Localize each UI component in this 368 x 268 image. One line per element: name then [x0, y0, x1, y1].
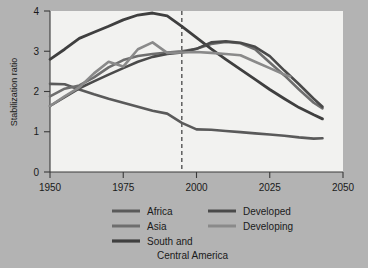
plot-panel: [50, 11, 343, 172]
y-tick-label-3: 3: [33, 46, 39, 57]
legend-label-south-and: South and: [147, 236, 193, 247]
x-tick-label-1975: 1975: [112, 182, 135, 193]
x-tick-label-2000: 2000: [185, 182, 208, 193]
legend-label-developed: Developed: [243, 206, 291, 217]
legend-label-africa: Africa: [147, 206, 173, 217]
y-tick-label-4: 4: [33, 6, 39, 17]
legend-label-asia: Asia: [147, 221, 167, 232]
y-tick-label-1: 1: [33, 126, 39, 137]
x-tick-label-2025: 2025: [259, 182, 282, 193]
x-tick-label-2050: 2050: [332, 182, 355, 193]
legend-label-central-america: Central America: [157, 250, 229, 261]
y-tick-label-2: 2: [33, 86, 39, 97]
stabilization-ratio-chart: 0 1 2 3 4 1950 1975 2000 2025 2050 Stabi…: [0, 0, 368, 268]
y-axis-title: Stabilization ratio: [9, 58, 19, 127]
y-tick-label-0: 0: [33, 167, 39, 178]
legend-label-developing: Developing: [243, 221, 293, 232]
x-tick-label-1950: 1950: [39, 182, 62, 193]
